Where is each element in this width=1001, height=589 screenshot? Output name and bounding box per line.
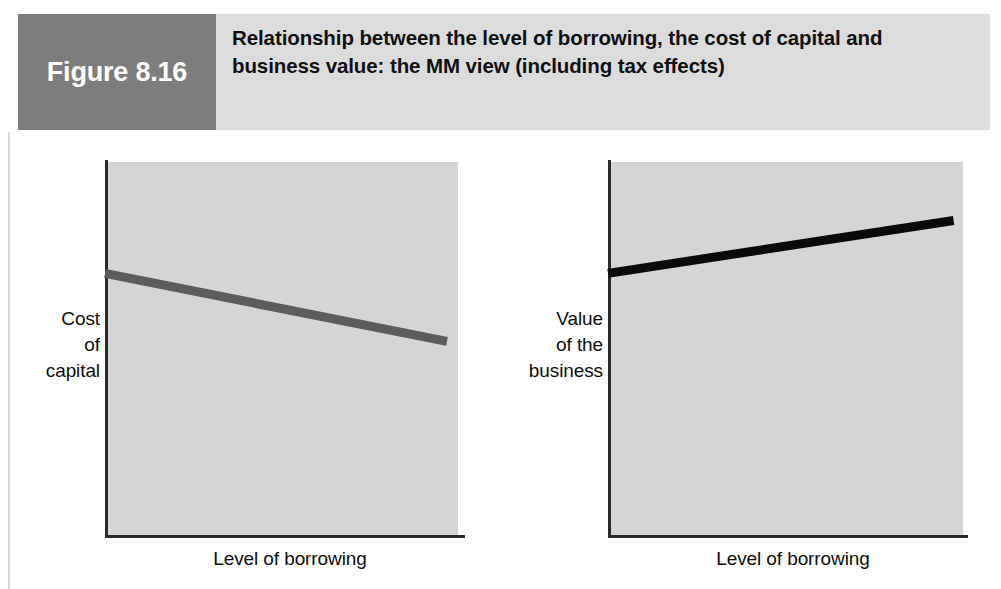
series-line-cost-of-capital — [105, 160, 465, 538]
y-axis-label-value-of-business: Value of the business — [509, 306, 603, 384]
chart-cost-of-capital: Cost of capital Level of borrowing — [0, 130, 500, 589]
y-axis-label-cost-of-capital: Cost of capital — [18, 306, 100, 384]
figure-title: Relationship between the level of borrow… — [232, 24, 932, 79]
value-of-business-line — [608, 220, 954, 273]
charts-container: Cost of capital Level of borrowing Value… — [0, 130, 1001, 589]
figure-number-label: Figure 8.16 — [47, 57, 187, 88]
series-line-value-of-business — [608, 160, 968, 538]
figure-number-badge: Figure 8.16 — [18, 14, 216, 130]
figure-page: Figure 8.16 Relationship between the lev… — [0, 0, 1001, 589]
x-axis-label-cost-of-capital: Level of borrowing — [150, 548, 430, 570]
chart-value-of-business: Value of the business Level of borrowing — [501, 130, 1001, 589]
x-axis-label-value-of-business: Level of borrowing — [653, 548, 933, 570]
cost-of-capital-line — [105, 273, 447, 341]
